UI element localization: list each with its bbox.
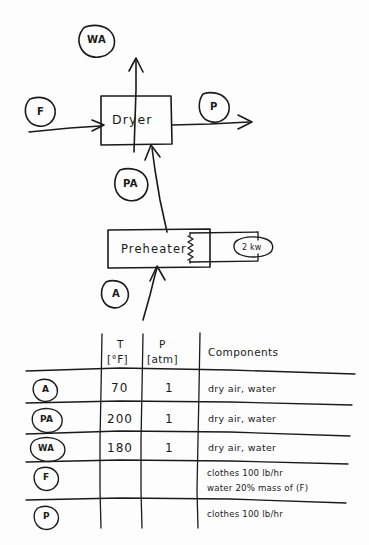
table-cell-p-components: clothes 100 lb/hr bbox=[207, 509, 283, 519]
table-row-line-header bbox=[26, 368, 355, 374]
table-cell-f-components-line2: water 20% mass of (F) bbox=[207, 483, 308, 493]
stream-label-pa: PA bbox=[123, 178, 138, 189]
table-cell-pa-components: dry air, water bbox=[208, 413, 276, 424]
sketch-page: Dryer Preheater 2 kw WA F P PA A T [°F] … bbox=[0, 0, 369, 545]
table-row-line-3 bbox=[26, 460, 348, 464]
duty-wire-bottom bbox=[190, 254, 258, 262]
dryer-label: Dryer bbox=[112, 112, 153, 127]
table-row-tag-a: A bbox=[42, 384, 49, 394]
table-cell-wa-pressure: 1 bbox=[165, 441, 174, 455]
preheater-label: Preheater bbox=[121, 242, 187, 256]
table-row-line-4 bbox=[26, 498, 346, 503]
heater-duty-label: 2 kw bbox=[242, 243, 262, 252]
table-cell-f-components-line1: clothes 100 lb/hr bbox=[207, 468, 283, 478]
stream-label-p: P bbox=[210, 101, 218, 112]
duty-wire-top bbox=[190, 232, 258, 240]
table-cell-a-pressure: 1 bbox=[165, 381, 174, 395]
table-cell-wa-components: dry air, water bbox=[208, 442, 276, 453]
table-row-tag-wa: WA bbox=[38, 443, 54, 453]
table-header-temperature-units: [°F] bbox=[107, 353, 128, 365]
table-row-tag-f: F bbox=[43, 472, 49, 482]
arrow-a bbox=[143, 268, 157, 320]
table-row-tag-p: P bbox=[43, 511, 50, 521]
stream-label-f: F bbox=[37, 106, 44, 117]
arrow-wa bbox=[134, 60, 136, 152]
table-header-pressure-units: [atm] bbox=[147, 353, 178, 365]
stream-label-wa: WA bbox=[87, 34, 106, 45]
table-header-temperature: T bbox=[117, 338, 124, 350]
heating-coil bbox=[188, 236, 193, 260]
table-header-pressure: P bbox=[159, 338, 166, 350]
table-row-line-1 bbox=[26, 401, 352, 405]
table-cell-a-components: dry air, water bbox=[208, 383, 276, 394]
stream-label-a: A bbox=[112, 288, 120, 299]
process-flow-sketch bbox=[0, 0, 369, 545]
table-row-line-2 bbox=[26, 431, 350, 436]
table-cell-pa-pressure: 1 bbox=[165, 412, 174, 426]
table-cell-pa-temperature: 200 bbox=[107, 412, 133, 426]
table-cell-a-temperature: 70 bbox=[111, 381, 128, 395]
table-header-components: Components bbox=[208, 346, 278, 358]
table-row-tag-pa: PA bbox=[40, 414, 53, 424]
arrow-pa bbox=[152, 148, 167, 232]
table-cell-wa-temperature: 180 bbox=[107, 441, 133, 455]
